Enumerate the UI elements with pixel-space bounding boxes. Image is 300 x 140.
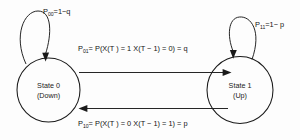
- label-p01: P01= P(X(T ) = 1 X(T − 1) = 0) = q: [78, 44, 188, 54]
- markov-chain-diagram: State 0 (Down) State 1 (Up) P00=1−q P11=…: [0, 0, 300, 140]
- state-1-label-line1: State 1: [229, 81, 252, 90]
- state-0-label-line1: State 0: [37, 81, 60, 90]
- label-p00: P00=1−q: [43, 7, 70, 17]
- state-1-label-line2: (Up): [233, 91, 247, 100]
- diagram-canvas: State 0 (Down) State 1 (Up) P00=1−q P11=…: [0, 0, 300, 140]
- transition-1-to-0-arrowhead: [79, 105, 88, 112]
- self-loop-state-0-arrowhead: [42, 53, 49, 62]
- label-p01-body: = P(X(T ) = 1 X(T − 1) = 0) = q: [89, 44, 188, 53]
- label-p11: P11=1− p: [255, 20, 284, 30]
- label-p10: P10= P(X(T ) = 0 X(T − 1) = 1) = p: [78, 119, 188, 129]
- label-p00-body: =1−q: [54, 7, 71, 16]
- label-p10-body: = P(X(T ) = 0 X(T − 1) = 1) = p: [89, 119, 188, 128]
- state-0-label-line2: (Down): [37, 91, 60, 100]
- transition-0-to-1-arrowhead: [223, 69, 232, 76]
- label-p11-body: =1− p: [265, 20, 284, 29]
